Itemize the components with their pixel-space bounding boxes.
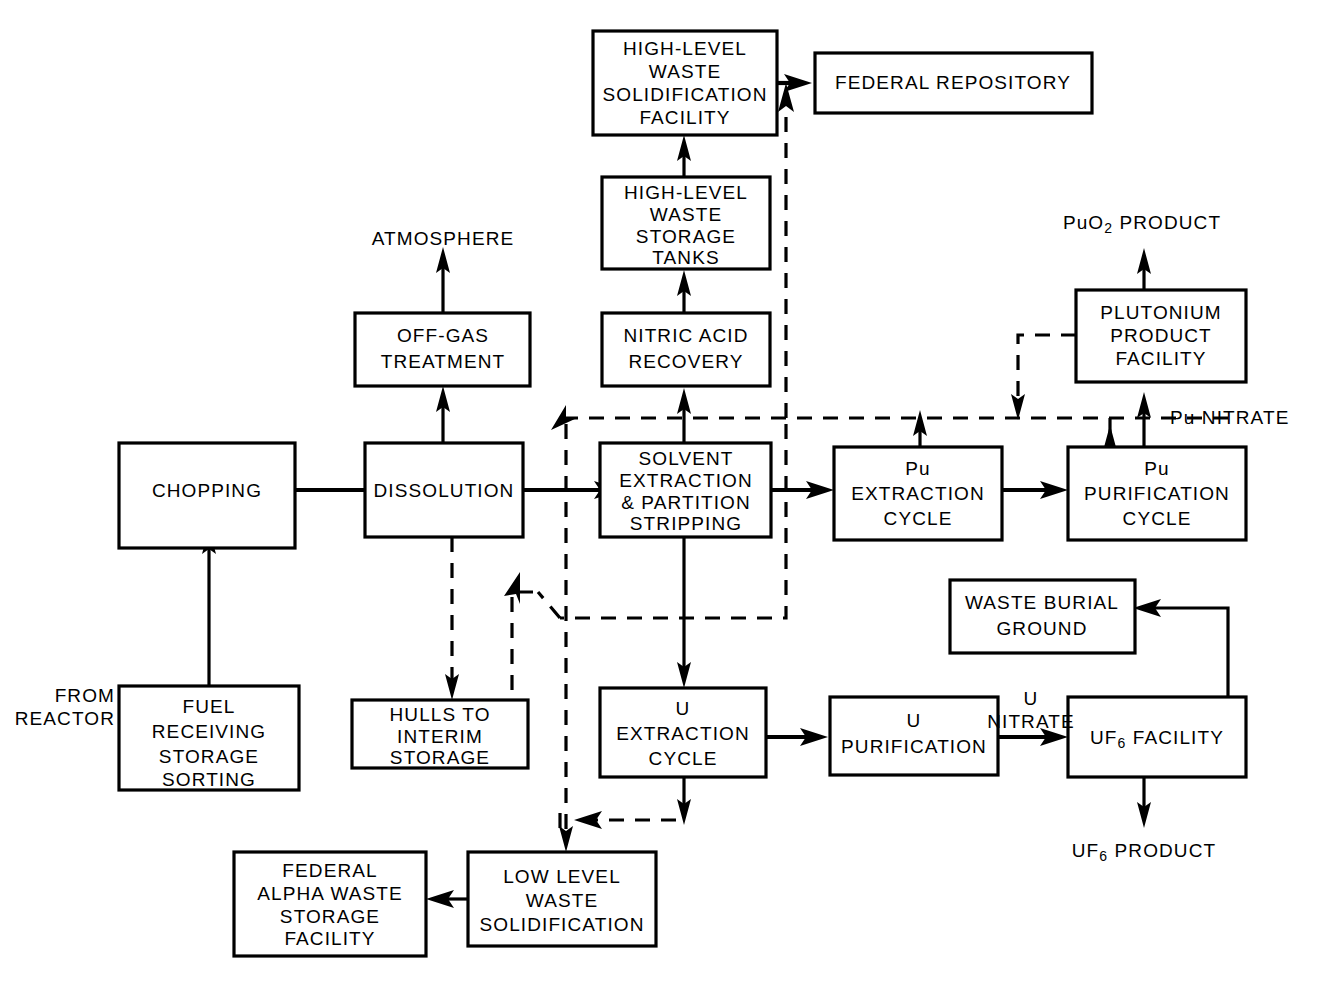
node-pu-extraction-cycle[interactable]: Pu EXTRACTION CYCLE: [834, 447, 1002, 540]
edge-llw-to-federal-alpha: [426, 890, 468, 908]
node-hlwsol-line2: WASTE: [649, 61, 721, 82]
node-fuel-receiving-line3: STORAGE: [159, 746, 259, 767]
node-fuel-receiving-line4: SORTING: [162, 769, 256, 790]
node-chopping[interactable]: CHOPPING: [119, 443, 295, 548]
node-hlwtanks-line2: WASTE: [650, 204, 722, 225]
node-federal-repository-label: FEDERAL REPOSITORY: [835, 72, 1071, 93]
process-flow-diagram: FUEL RECEIVING STORAGE SORTING CHOPPING …: [0, 0, 1324, 995]
edge-plutonium-product-to-puo2-product: [1137, 248, 1151, 291]
node-uf6-facility[interactable]: UF6 FACILITY: [1068, 697, 1246, 777]
edge-uf6-facility-to-waste-burial: [1133, 599, 1228, 698]
node-uext-line2: EXTRACTION: [616, 723, 749, 744]
node-llw-line3: SOLIDIFICATION: [480, 914, 645, 935]
label-puo2-product: PuO2 PRODUCT: [1063, 212, 1221, 236]
edge-u-extraction-to-llw: [677, 777, 691, 825]
edge-recycle-bus-lower-left: [538, 592, 560, 618]
node-llw-line1: LOW LEVEL: [503, 866, 621, 887]
node-wasteburial-line2: GROUND: [996, 618, 1087, 639]
node-hlw-storage-tanks[interactable]: HIGH-LEVEL WASTE STORAGE TANKS: [602, 177, 770, 269]
node-dissolution-label: DISSOLUTION: [374, 480, 515, 501]
node-puext-line3: CYCLE: [884, 508, 953, 529]
edge-pu-extraction-to-recycle: [913, 410, 927, 447]
label-u-nitrate-line2: NITRATE: [987, 711, 1075, 732]
node-off-gas-treatment[interactable]: OFF-GAS TREATMENT: [355, 313, 530, 386]
edge-recycle-bus-upper: [551, 405, 1228, 430]
node-fuel-receiving-line1: FUEL: [183, 696, 236, 717]
edge-hlw-solidification-to-federal-repository: [776, 74, 812, 92]
label-uf6-product: UF6 PRODUCT: [1072, 840, 1216, 864]
node-nitric-line1: NITRIC ACID: [623, 325, 748, 346]
node-solvex-line3: & PARTITION: [621, 492, 751, 513]
label-puo2-product-text: PuO2 PRODUCT: [1063, 212, 1221, 236]
edge-plutonium-product-recycle: [1011, 335, 1076, 420]
node-nitric-acid-recovery[interactable]: NITRIC ACID RECOVERY: [602, 313, 770, 386]
edge-recycle-to-hulls-elbow: [504, 572, 538, 690]
node-hlwsol-line1: HIGH-LEVEL: [623, 38, 747, 59]
node-dissolution[interactable]: DISSOLUTION: [365, 443, 523, 537]
label-u-nitrate-line1: U: [1024, 688, 1039, 709]
node-hulls-line1: HULLS TO: [389, 704, 490, 725]
node-wasteburial-line1: WASTE BURIAL: [965, 592, 1119, 613]
label-from-reactor-line1: FROM: [55, 685, 115, 706]
node-pupur-line1: Pu: [1144, 458, 1169, 479]
label-from-reactor-line2: REACTOR: [15, 708, 115, 729]
node-hlwtanks-line1: HIGH-LEVEL: [624, 182, 748, 203]
node-waste-burial-ground[interactable]: WASTE BURIAL GROUND: [950, 580, 1135, 653]
node-nitric-line2: RECOVERY: [628, 351, 743, 372]
node-u-purification[interactable]: U PURIFICATION: [830, 697, 998, 775]
node-federal-repository[interactable]: FEDERAL REPOSITORY: [815, 53, 1092, 113]
node-ppf-line1: PLUTONIUM: [1100, 302, 1221, 323]
edge-solvent-extraction-to-u-extraction: [677, 537, 691, 688]
edge-llw-feed-dashed: [574, 811, 676, 829]
node-chopping-label: CHOPPING: [152, 480, 262, 501]
node-solvent-extraction[interactable]: SOLVENT EXTRACTION & PARTITION STRIPPING: [600, 443, 771, 537]
label-pu-nitrate-text: Pu NITRATE: [1170, 407, 1289, 428]
node-hlwsol-line3: SOLIDIFICATION: [603, 84, 768, 105]
node-hlwtanks-line4: TANKS: [652, 247, 719, 268]
flow-canvas: FUEL RECEIVING STORAGE SORTING CHOPPING …: [0, 0, 1324, 995]
label-uf6-product-text: UF6 PRODUCT: [1072, 840, 1216, 864]
node-ppf-line3: FACILITY: [1115, 348, 1206, 369]
node-hulls-line2: INTERIM: [397, 726, 483, 747]
node-solvex-line1: SOLVENT: [639, 448, 734, 469]
node-uext-line3: CYCLE: [649, 748, 718, 769]
node-ppf-line2: PRODUCT: [1110, 325, 1212, 346]
label-atmosphere: ATMOSPHERE: [372, 228, 515, 249]
node-puext-line2: EXTRACTION: [851, 483, 984, 504]
node-upur-line1: U: [907, 710, 922, 731]
node-fuel-receiving-line2: RECEIVING: [152, 721, 266, 742]
edge-off-gas-to-atmosphere: [436, 247, 450, 313]
node-pu-purification-cycle[interactable]: Pu PURIFICATION CYCLE: [1068, 447, 1246, 540]
edge-u-extraction-to-u-purification: [766, 728, 828, 746]
edge-uf6-facility-to-uf6-product: [1137, 777, 1151, 828]
edge-nitric-acid-to-hlw-tanks: [677, 270, 691, 313]
node-pupur-line2: PURIFICATION: [1084, 483, 1230, 504]
node-uf6-facility-label: UF6 FACILITY: [1090, 727, 1224, 751]
node-upur-line2: PURIFICATION: [841, 736, 987, 757]
node-hulls-line3: STORAGE: [390, 747, 490, 768]
node-off-gas-line1: OFF-GAS: [397, 325, 489, 346]
node-pupur-line3: CYCLE: [1123, 508, 1192, 529]
edge-hlw-tanks-to-hlw-solidification: [677, 135, 691, 181]
node-fedalpha-line3: STORAGE: [280, 906, 380, 927]
node-hulls-interim-storage[interactable]: HULLS TO INTERIM STORAGE: [352, 700, 528, 768]
node-plutonium-product-facility[interactable]: PLUTONIUM PRODUCT FACILITY: [1076, 290, 1246, 382]
node-federal-alpha-waste-storage[interactable]: FEDERAL ALPHA WASTE STORAGE FACILITY: [234, 852, 426, 956]
label-u-nitrate: U NITRATE: [987, 688, 1075, 732]
node-hlwtanks-line3: STORAGE: [636, 226, 736, 247]
node-llw-solidification[interactable]: LOW LEVEL WASTE SOLIDIFICATION: [468, 852, 656, 946]
node-puext-line1: Pu: [905, 458, 930, 479]
edge-solvent-extraction-to-pu-extraction: [771, 481, 834, 499]
node-hlw-solidification-facility[interactable]: HIGH-LEVEL WASTE SOLIDIFICATION FACILITY: [593, 31, 777, 135]
label-pu-nitrate: Pu NITRATE: [1170, 407, 1289, 428]
node-fedalpha-line2: ALPHA WASTE: [257, 883, 403, 904]
label-from-reactor: FROM REACTOR: [15, 685, 115, 729]
node-off-gas-line2: TREATMENT: [381, 351, 506, 372]
node-fuel-receiving[interactable]: FUEL RECEIVING STORAGE SORTING: [119, 686, 299, 790]
node-llw-line2: WASTE: [526, 890, 598, 911]
node-u-extraction-cycle[interactable]: U EXTRACTION CYCLE: [600, 688, 766, 777]
node-fedalpha-line1: FEDERAL: [282, 860, 377, 881]
node-solvex-line4: STRIPPING: [630, 513, 742, 534]
node-solvex-line2: EXTRACTION: [619, 470, 752, 491]
node-uext-line1: U: [676, 698, 691, 719]
